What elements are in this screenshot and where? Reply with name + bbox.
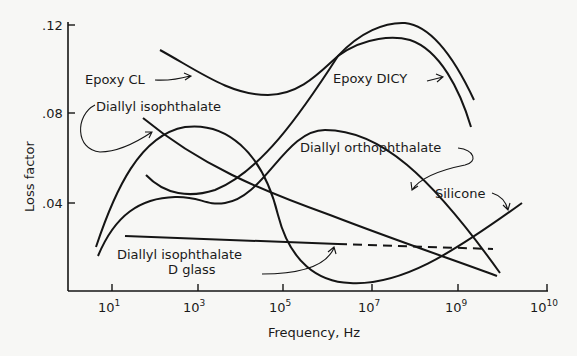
arrow-epoxy-cl [155,73,191,80]
x-tick-1e7: 107 [358,298,380,315]
arrow-epoxy-dicy [427,74,443,82]
x-axis-title: Frequency, Hz [268,325,360,340]
curve-dglass-dashed [338,244,493,249]
x-tick-1e5: 105 [269,298,291,315]
curve-dglass-solid [125,236,338,244]
y-tick-012: .12 [42,18,63,33]
x-tick-1e9: 109 [445,298,468,315]
label-epoxy-cl: Epoxy CL [85,72,146,87]
x-tick-1e10: 1010 [530,298,558,315]
label-dglass-line1: Diallyl isophthalate [117,247,242,262]
label-epoxy-dicy: Epoxy DICY [333,71,407,86]
loss-factor-chart: .12 .08 .04 101 103 105 107 109 1010 Fre… [0,0,577,356]
label-dglass-line2: D glass [168,262,216,277]
arrow-dglass [262,247,336,274]
label-diallyl-isophthalate: Diallyl isophthalate [96,99,221,114]
y-tick-008: .08 [42,106,63,121]
label-diallyl-orthophthalate: Diallyl orthophthalate [300,140,441,155]
arrow-silicone [492,193,510,210]
y-axis-title: Loss factor [22,141,37,212]
y-tick-004: .04 [42,196,63,211]
x-tick-1e1: 101 [98,298,120,315]
x-tick-1e3: 103 [183,298,205,315]
label-silicone: Silicone [435,186,485,201]
